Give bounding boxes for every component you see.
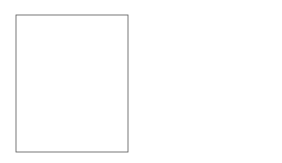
frame-left: [16, 15, 128, 152]
diagram-canvas: [0, 0, 282, 163]
